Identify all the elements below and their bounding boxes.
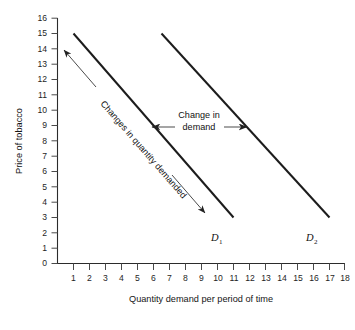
x-tick-label: 2 [87,273,92,283]
curve-label-d1-subscript: 1 [219,238,223,246]
x-tick-label: 10 [213,273,223,283]
curve-label-d2: D 2 [305,232,318,246]
x-tick-label: 6 [151,273,156,283]
x-tick-label: 16 [309,273,319,283]
x-tick-label: 14 [277,273,287,283]
figure-caption [0,322,355,330]
y-tick-label: 1 [42,243,47,253]
annotation-change-in-demand-line2: demand [183,122,216,132]
x-tick-label: 1 [71,273,76,283]
x-tick-label: 18 [340,273,350,283]
y-axis-ticks [52,18,58,263]
y-tick-label: 10 [37,105,47,115]
annotation-change-in-demand: Change in demand [152,110,247,132]
y-tick-label: 3 [42,212,47,222]
y-tick-label: 2 [42,228,47,238]
y-tick-label: 16 [37,13,47,23]
y-tick-label: 9 [42,120,47,130]
y-tick-label: 14 [37,44,47,54]
x-tick-label: 12 [245,273,255,283]
x-tick-label: 15 [293,273,303,283]
y-tick-label: 13 [37,59,47,69]
figure-container: 0 1 2 3 4 5 6 7 8 9 10 11 12 13 14 15 16 [0,0,355,330]
x-axis-ticks [74,264,345,271]
y-tick-label: 7 [42,151,47,161]
y-tick-label: 8 [42,136,47,146]
y-tick-label: 0 [42,258,47,268]
y-axis-title: Price of tobacco [14,108,24,174]
y-axis-tick-labels: 0 1 2 3 4 5 6 7 8 9 10 11 12 13 14 15 16 [37,13,47,268]
y-tick-label: 4 [42,197,47,207]
y-tick-label: 15 [37,28,47,38]
x-axis-tick-labels: 1 2 3 4 5 6 7 8 9 10 11 12 13 14 15 16 1… [71,273,350,283]
annotation-change-in-demand-line1: Change in [178,110,219,120]
curve-label-d1-text: D [210,232,219,243]
x-tick-label: 5 [135,273,140,283]
arrow-up-left-quantity-demanded [64,50,96,87]
x-tick-label: 3 [103,273,108,283]
x-tick-label: 7 [167,273,172,283]
x-tick-label: 9 [199,273,204,283]
y-tick-label: 11 [38,90,47,100]
curve-label-d2-subscript: 2 [314,238,318,246]
y-tick-label: 6 [42,166,47,176]
y-tick-label: 12 [37,74,47,84]
y-tick-label: 5 [42,182,47,192]
x-tick-label: 4 [119,273,124,283]
x-tick-label: 13 [261,273,271,283]
curve-label-d1: D 1 [210,232,223,246]
x-axis-title: Quantity demand per period of time [129,294,273,304]
x-tick-label: 17 [325,273,335,283]
demand-curve-chart: 0 1 2 3 4 5 6 7 8 9 10 11 12 13 14 15 16 [0,0,355,330]
curve-label-d2-text: D [305,232,314,243]
x-tick-label: 8 [183,273,188,283]
x-tick-label: 11 [230,273,239,283]
